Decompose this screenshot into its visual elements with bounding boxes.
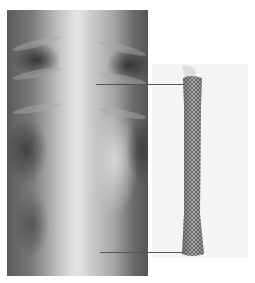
chest-xray — [7, 10, 148, 276]
stent — [180, 64, 220, 258]
rib — [12, 34, 62, 54]
rib — [12, 101, 62, 117]
upper-pointer — [96, 84, 184, 85]
spine — [67, 10, 89, 276]
rib — [97, 39, 147, 59]
rib — [12, 65, 62, 82]
rib — [97, 106, 147, 122]
lower-pointer — [100, 252, 184, 253]
stent-mesh — [182, 76, 204, 256]
